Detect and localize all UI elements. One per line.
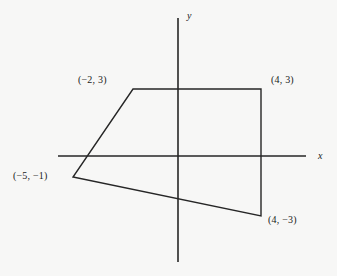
polygon-shape xyxy=(73,89,261,216)
x-axis-label: x xyxy=(318,150,322,161)
coordinate-plane-figure: (−2, 3) (4, 3) (4, −3) (−5, −1) x y xyxy=(0,0,337,276)
vertex-label-bottom-right: (4, −3) xyxy=(268,214,297,225)
plot-canvas xyxy=(0,0,337,276)
y-axis-label: y xyxy=(187,10,191,21)
vertex-label-top-left: (−2, 3) xyxy=(78,74,107,85)
vertex-label-top-right: (4, 3) xyxy=(271,74,294,85)
vertex-label-bottom-left: (−5, −1) xyxy=(13,170,48,181)
